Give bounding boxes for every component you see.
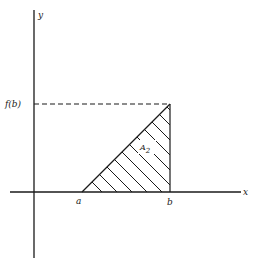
- a-label: a: [76, 196, 81, 206]
- y-axis-label: y: [37, 10, 44, 20]
- integral-diagram: y x f(b) a b A2: [0, 0, 260, 270]
- fb-label: f(b): [4, 99, 22, 109]
- region-a2: [70, 90, 180, 200]
- x-axis-label: x: [243, 187, 248, 197]
- b-label: b: [167, 197, 173, 207]
